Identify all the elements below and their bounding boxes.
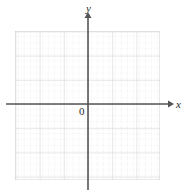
coordinate-grid-figure: y x 0: [0, 0, 186, 195]
coordinate-plane: [0, 0, 186, 195]
x-axis-arrowhead: [168, 101, 174, 108]
y-axis-label: y: [86, 3, 91, 14]
major-grid: [8, 24, 186, 195]
origin-label: 0: [79, 106, 85, 117]
x-axis-label: x: [176, 99, 181, 110]
grid-lines: [8, 24, 186, 195]
